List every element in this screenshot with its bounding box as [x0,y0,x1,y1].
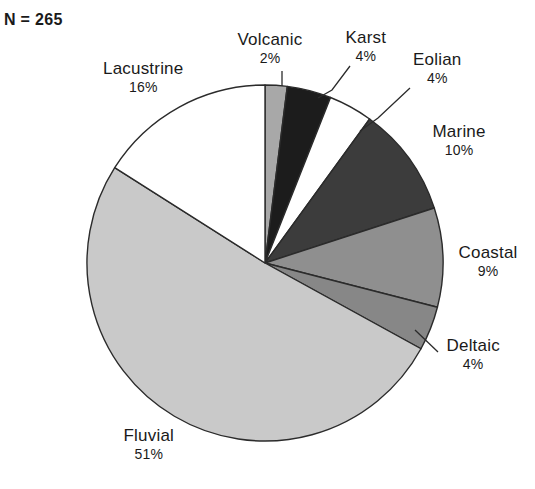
pie-label-name: Eolian [413,50,461,70]
pie-label-deltaic: Deltaic4% [447,336,500,373]
pie-label-name: Lacustrine [103,59,183,79]
pie-label-name: Volcanic [238,30,303,50]
pie-label-percent: 2% [238,50,303,67]
pie-label-percent: 9% [459,263,518,280]
pie-label-name: Deltaic [447,336,500,356]
pie-label-name: Fluvial [124,426,175,446]
pie-label-percent: 4% [346,48,387,65]
pie-label-fluvial: Fluvial51% [124,426,175,463]
pie-label-percent: 51% [124,446,175,463]
pie-label-name: Marine [433,122,486,142]
pie-label-eolian: Eolian4% [413,50,461,87]
pie-label-volcanic: Volcanic2% [238,30,303,67]
pie-label-name: Coastal [459,243,518,263]
pie-slices-group [87,85,443,441]
pie-label-coastal: Coastal9% [459,243,518,280]
pie-label-percent: 16% [103,79,183,96]
pie-label-karst: Karst4% [346,28,387,65]
leader-line-karst [318,66,350,98]
pie-chart-figure: Depositional environment N = 265 Volcani… [0,0,535,489]
pie-label-percent: 4% [447,356,500,373]
pie-label-marine: Marine10% [433,122,486,159]
pie-label-name: Karst [346,28,387,48]
pie-label-percent: 10% [433,142,486,159]
pie-label-lacustrine: Lacustrine16% [103,59,183,96]
pie-label-percent: 4% [413,70,461,87]
